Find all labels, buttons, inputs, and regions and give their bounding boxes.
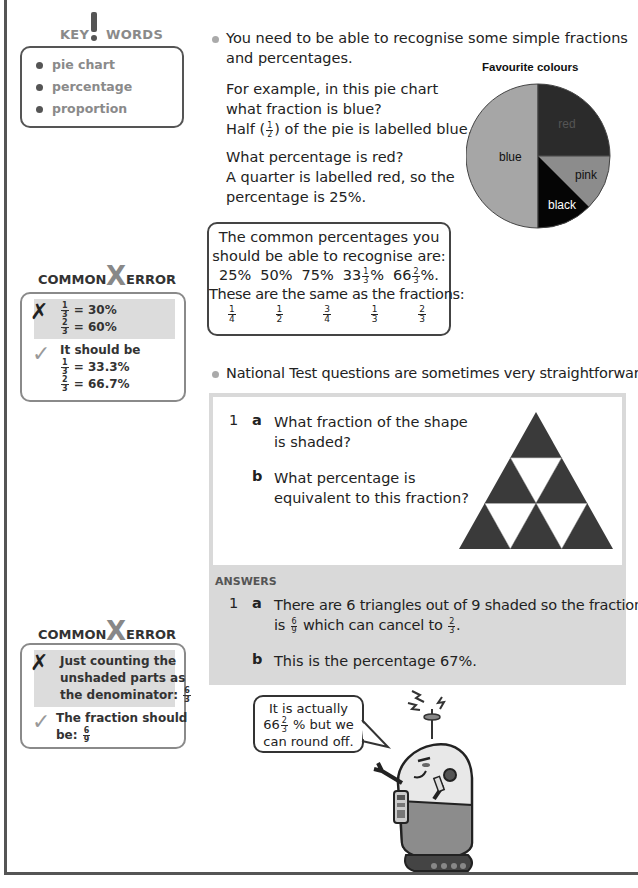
common-error-title-right: ERROR <box>126 627 176 642</box>
fraction: 63 <box>183 687 191 704</box>
answers-title: ANSWERS <box>215 575 277 588</box>
example-line: A quarter is labelled red, so the <box>226 167 476 187</box>
question-part-a-text: What fraction of the shape is shaded? <box>274 412 468 452</box>
correct-intro: It should be <box>60 342 175 359</box>
key-word-label: proportion <box>52 101 127 116</box>
exclamation-icon <box>91 12 97 40</box>
example-line: For example, in this pie chart <box>226 79 476 99</box>
key-word-item: proportion <box>36 100 182 122</box>
fraction: 12 <box>276 305 284 324</box>
national-test-text: National Test questions are sometimes ve… <box>226 363 638 383</box>
wrong-answer-block: ✗ Just counting the unshaded parts as th… <box>34 650 175 707</box>
correct-line: 23 = 66.7% <box>60 376 175 393</box>
wrong-mark-icon: ✗ <box>30 299 48 324</box>
percentage: 6623%. <box>393 266 439 285</box>
check-icon: ✓ <box>32 709 50 734</box>
key-word-item: percentage <box>36 78 182 100</box>
question-part-a-label: a <box>252 412 262 428</box>
box-line: The common percentages you <box>209 228 449 247</box>
example-line: Half (12) of the pie is labelled blue. <box>226 119 476 139</box>
wrong-line: 13 = 30% <box>60 302 171 319</box>
wrong-line: the denominator: 63 <box>60 687 173 704</box>
percentage: 25% <box>219 266 251 285</box>
fractions-row: 14 12 34 13 23 <box>209 305 449 324</box>
percentage: 3313% <box>343 266 384 285</box>
check-icon: ✓ <box>32 341 50 366</box>
box-line: These are the same as the fractions: <box>209 285 449 304</box>
intro-line: You need to be able to recognise some si… <box>226 28 636 48</box>
fraction: 23 <box>418 305 426 324</box>
fraction: 34 <box>323 305 331 324</box>
answer-part-b-text: This is the percentage 67%. <box>274 651 477 671</box>
bullet-icon <box>36 62 43 69</box>
question-part-b-text: What percentage is equivalent to this fr… <box>274 468 469 508</box>
common-error-box: ✗ Just counting the unshaded parts as th… <box>20 643 186 749</box>
example-line: what fraction is blue? <box>226 99 476 119</box>
triangle-figure <box>457 410 617 552</box>
bullet-icon <box>212 371 219 378</box>
fraction: 13 <box>371 305 379 324</box>
key-words-box: pie chart percentage proportion <box>20 46 184 128</box>
key-words-header: KEY WORDS <box>58 10 158 46</box>
cross-icon: X <box>106 617 126 645</box>
example-line: percentage is 25%. <box>226 187 476 207</box>
correct-answer-block: ✓ It should be 13 = 33.3% 23 = 66.7% <box>26 339 179 396</box>
pie-label-red: red <box>558 117 575 131</box>
percentage: 75% <box>301 266 333 285</box>
common-error-title-left: COMMON <box>38 272 106 287</box>
answer-part-a-label: a <box>252 595 262 611</box>
fraction: 23 <box>61 319 69 336</box>
pie-label-black: black <box>548 198 577 212</box>
cross-icon: X <box>106 262 126 290</box>
pie-label-blue: blue <box>499 150 522 164</box>
pie-chart: blue red pink black <box>466 81 611 231</box>
fraction: 14 <box>228 305 236 324</box>
percentage: 50% <box>260 266 292 285</box>
key-word-label: percentage <box>52 79 132 94</box>
common-error-title-right: ERROR <box>126 272 176 287</box>
correct-line: The fraction should <box>56 710 175 727</box>
key-word-item: pie chart <box>36 56 182 78</box>
pie-chart-title: Favourite colours <box>482 61 579 73</box>
pie-label-pink: pink <box>575 168 598 182</box>
fraction: 13 <box>61 302 69 319</box>
correct-answer-block: ✓ The fraction should be: 69 <box>26 707 179 747</box>
wrong-line: Just counting the <box>60 653 173 670</box>
percentages-row: 25% 50% 75% 3313% 6623%. <box>209 266 449 285</box>
fraction: 23 <box>61 376 69 393</box>
wrong-answer-block: ✗ 13 = 30% 23 = 60% <box>34 299 175 339</box>
answer-part-a-text: There are 6 triangles out of 9 shaded so… <box>274 595 624 635</box>
answer-part-b-label: b <box>252 651 262 667</box>
correct-line: be: 69 <box>56 727 175 744</box>
wrong-mark-icon: ✗ <box>30 650 48 675</box>
robot-mascot-icon <box>360 683 480 878</box>
example-line: What percentage is red? <box>226 147 476 167</box>
question-number: 1 <box>229 412 238 428</box>
example-text: For example, in this pie chart what frac… <box>226 79 476 207</box>
fraction: 12 <box>266 122 273 139</box>
bullet-icon <box>212 36 219 43</box>
fraction: 69 <box>83 727 91 744</box>
answer-number: 1 <box>229 595 238 611</box>
wrong-line: 23 = 60% <box>60 319 171 336</box>
key-words-title-left: KEY <box>60 27 89 42</box>
wrong-line: unshaded parts as <box>60 670 173 687</box>
common-error-box: ✗ 13 = 30% 23 = 60% ✓ It should be 13 = … <box>20 292 186 402</box>
question-part-b-label: b <box>252 468 262 484</box>
bullet-icon <box>36 106 43 113</box>
common-error-title-left: COMMON <box>38 627 106 642</box>
correct-line: 13 = 33.3% <box>60 359 175 376</box>
common-error-header: COMMON X ERROR <box>38 262 178 292</box>
bullet-icon <box>36 84 43 91</box>
key-words-title-right: WORDS <box>106 27 163 42</box>
key-word-label: pie chart <box>52 57 115 72</box>
fraction: 13 <box>61 359 69 376</box>
common-percentages-box: The common percentages you should be abl… <box>207 222 451 336</box>
box-line: should be able to recognise are: <box>209 247 449 266</box>
